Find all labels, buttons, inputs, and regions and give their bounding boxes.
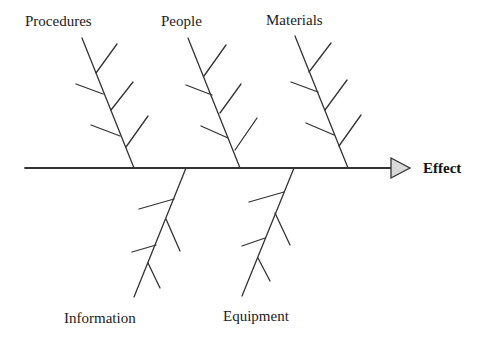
category-label-materials: Materials xyxy=(266,13,323,28)
bone-materials xyxy=(291,36,361,168)
category-label-information: Information xyxy=(64,311,136,326)
fishbone-diagram xyxy=(0,0,485,343)
bone-equipment xyxy=(242,168,294,296)
bone-procedures xyxy=(76,38,148,168)
effect-label: Effect xyxy=(423,161,461,176)
category-label-procedures: Procedures xyxy=(25,14,92,29)
category-label-equipment: Equipment xyxy=(223,309,289,324)
effect-arrow-icon xyxy=(391,158,410,178)
bone-people xyxy=(186,38,257,168)
bone-information xyxy=(132,168,186,297)
category-label-people: People xyxy=(161,14,202,29)
